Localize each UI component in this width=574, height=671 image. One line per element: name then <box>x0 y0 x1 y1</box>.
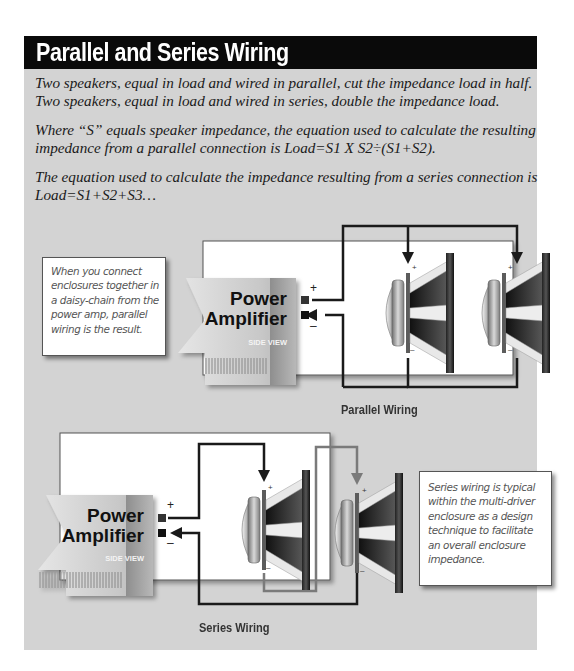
note-line: When you connect <box>51 264 165 278</box>
amp-label-line-1: Power <box>230 288 288 309</box>
note-line: an overall enclosure <box>428 538 551 552</box>
note-line: a daisy-chain from the <box>51 293 165 307</box>
parallel-note-box: When you connect enclosures together in … <box>42 257 166 356</box>
plus-sign: + <box>167 498 174 512</box>
svg-text:–: – <box>410 345 415 354</box>
series-note-box: Series wiring is typical within the mult… <box>419 471 552 586</box>
note-line: technique to facilitate <box>428 523 551 537</box>
svg-text:+: + <box>412 263 417 272</box>
minus-sign: – <box>310 319 317 333</box>
positive-terminal <box>301 296 309 304</box>
note-line: enclosures together in <box>51 278 165 292</box>
series-caption: Series Wiring <box>199 620 270 635</box>
note-line: wiring is the result. <box>51 322 165 336</box>
amp-label-line-1: Power <box>87 505 145 526</box>
note-line: Series wiring is typical <box>428 480 551 494</box>
arrow-down-icon <box>351 473 363 485</box>
svg-text:+: + <box>362 486 367 495</box>
parallel-caption: Parallel Wiring <box>341 402 418 417</box>
svg-text:–: – <box>508 345 513 354</box>
side-view-label: SIDE VIEW <box>105 554 145 563</box>
svg-text:+: + <box>508 263 513 272</box>
note-line: impedance. <box>428 552 551 566</box>
svg-text:–: – <box>266 563 271 572</box>
svg-text:+: + <box>268 483 273 492</box>
plus-sign: + <box>310 281 317 295</box>
svg-text:–: – <box>360 566 365 575</box>
side-view-label: SIDE VIEW <box>248 338 288 347</box>
amp-label-line-2: Amplifier <box>62 525 145 546</box>
note-line: within the multi-driver <box>428 494 551 508</box>
note-line: power amp, parallel <box>51 307 165 321</box>
amp-label-line-2: Amplifier <box>205 308 288 329</box>
negative-terminal <box>158 529 166 537</box>
note-line: enclosure as a design <box>428 509 551 523</box>
minus-sign: – <box>167 536 174 550</box>
speaker-2-icon <box>335 473 403 593</box>
positive-terminal <box>158 514 166 522</box>
negative-terminal <box>301 311 309 319</box>
